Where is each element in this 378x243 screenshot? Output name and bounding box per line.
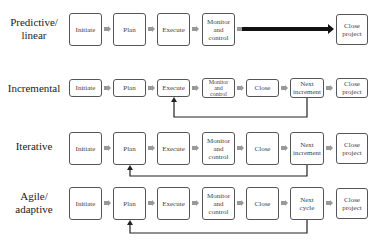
arrow-up-icon (171, 97, 177, 102)
feedback-arrow-icon (130, 165, 307, 176)
thick-arrow-icon (237, 24, 334, 34)
arrow-up-icon (127, 165, 133, 170)
arrow-up-icon (127, 220, 133, 225)
connector-lines (0, 0, 378, 243)
feedback-arrow-icon (174, 98, 307, 117)
feedback-arrow-icon (130, 220, 307, 233)
